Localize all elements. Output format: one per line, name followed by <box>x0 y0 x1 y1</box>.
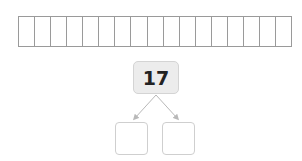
part-box-right[interactable] <box>162 122 195 155</box>
part-box-left[interactable] <box>115 122 148 155</box>
branch-arrows-icon <box>0 0 302 161</box>
